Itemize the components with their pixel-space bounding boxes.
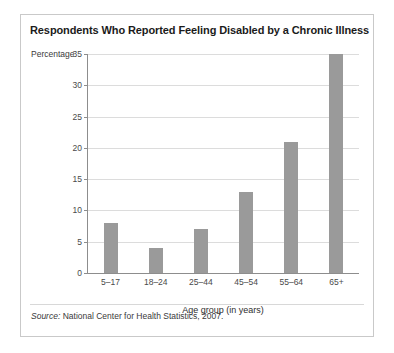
x-axis-tick-label: 65+ <box>329 277 343 287</box>
bar-series: 5–1718–2425–4445–5455–6465+ <box>88 54 359 273</box>
y-axis-tick-label: 35 <box>73 49 82 59</box>
plot-wrap: 35302520151050 5–1718–2425–4445–5455–646… <box>87 54 359 274</box>
bar-slot: 5–17 <box>88 54 133 273</box>
y-axis-tick <box>84 273 88 274</box>
y-axis-tick-label: 15 <box>73 174 82 184</box>
y-axis-title: Percentage <box>31 49 74 59</box>
x-axis-tick-label: 5–17 <box>101 277 120 287</box>
x-axis-tick-label: 45–54 <box>234 277 258 287</box>
bar <box>149 248 163 273</box>
bar-slot: 45–54 <box>224 54 269 273</box>
bar-slot: 65+ <box>314 54 359 273</box>
y-axis-tick-label: 5 <box>77 237 82 247</box>
x-axis-tick-label: 25–44 <box>189 277 213 287</box>
source-text: National Center for Health Statistics, 2… <box>60 311 223 321</box>
y-axis-tick-label: 25 <box>73 112 82 122</box>
y-axis-tick-label: 0 <box>77 268 82 278</box>
bar-slot: 25–44 <box>178 54 223 273</box>
source-note: Source: National Center for Health Stati… <box>31 311 223 321</box>
chart-figure-frame: Respondents Who Reported Feeling Disable… <box>20 14 374 337</box>
bar <box>284 142 298 273</box>
bar-slot: 55–64 <box>269 54 314 273</box>
chart-title: Respondents Who Reported Feeling Disable… <box>30 24 369 36</box>
bar-slot: 18–24 <box>133 54 178 273</box>
source-label: Source: <box>31 311 60 321</box>
footer-divider <box>30 304 364 305</box>
y-axis-tick-label: 10 <box>73 205 82 215</box>
y-axis-tick-label: 20 <box>73 143 82 153</box>
bar <box>329 54 343 273</box>
bar <box>194 229 208 273</box>
plot-area: 35302520151050 5–1718–2425–4445–5455–646… <box>87 54 359 274</box>
x-axis-tick-label: 55–64 <box>279 277 303 287</box>
x-axis-tick-label: 18–24 <box>144 277 168 287</box>
bar <box>239 192 253 273</box>
y-axis-tick-label: 30 <box>73 80 82 90</box>
bar <box>104 223 118 273</box>
